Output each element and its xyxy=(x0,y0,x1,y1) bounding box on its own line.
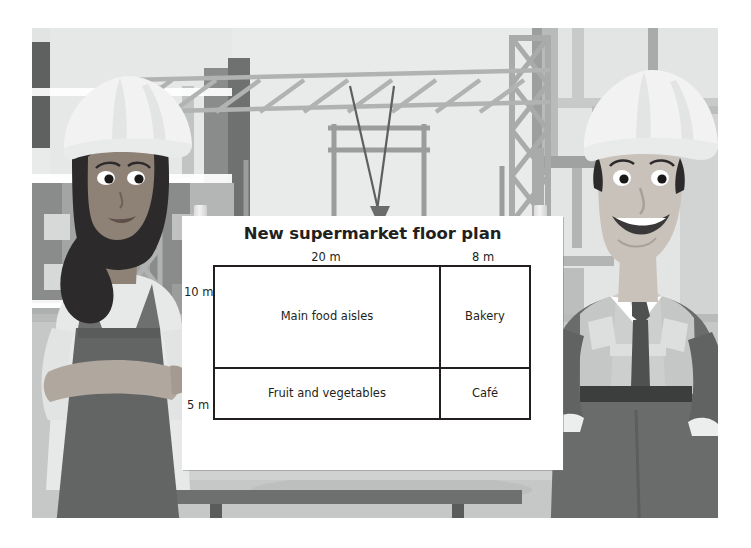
plan-cell-main-food-aisles: Main food aisles xyxy=(215,267,439,367)
man-belt xyxy=(580,386,692,402)
ledge-leg-right xyxy=(452,504,464,518)
screenshot-root: New supermarket floor plan 20 m 8 m 10 m… xyxy=(0,0,751,548)
dimension-label-top-left: 20 m xyxy=(311,250,341,264)
whiteboard: New supermarket floor plan 20 m 8 m 10 m… xyxy=(182,216,563,470)
plan-cell-fruit-and-vegetables: Fruit and vegetables xyxy=(215,369,439,418)
dimension-label-left-lower: 5 m xyxy=(187,398,209,412)
figure-left-woman xyxy=(42,76,195,518)
plan-cell-cafe: Café xyxy=(441,369,529,418)
floor-plan-diagram: Main food aisles Bakery Fruit and vegeta… xyxy=(213,265,531,420)
woman-overalls xyxy=(54,328,182,518)
plan-cell-bakery: Bakery xyxy=(441,267,529,367)
ledge-leg-left xyxy=(210,504,222,518)
page-title: New supermarket floor plan xyxy=(182,224,563,243)
ledge-bar xyxy=(150,490,522,504)
dimension-label-left-upper: 10 m xyxy=(184,285,214,299)
dimension-label-top-right: 8 m xyxy=(472,250,494,264)
